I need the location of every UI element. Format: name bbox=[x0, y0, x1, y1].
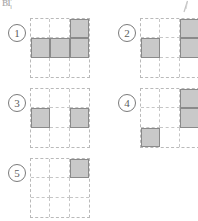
grid-cell-r1c3 bbox=[180, 19, 198, 38]
option-grid-2 bbox=[140, 18, 198, 78]
option-number-3: 3 bbox=[8, 94, 26, 112]
grid-cell-r1c1 bbox=[141, 89, 160, 108]
option-grid-5 bbox=[30, 158, 90, 218]
grid-cell-r2c3 bbox=[180, 108, 198, 127]
grid-cell-r3c2 bbox=[160, 58, 179, 77]
grid-cell-r1c2 bbox=[50, 19, 69, 38]
grid-cell-r3c3 bbox=[70, 198, 89, 217]
grid-cell-r2c1 bbox=[141, 38, 160, 57]
grid-cell-r3c1 bbox=[31, 198, 50, 217]
grid-cell-r3c2 bbox=[50, 198, 69, 217]
grid-cell-r3c2 bbox=[50, 58, 69, 77]
grid-cell-r2c2 bbox=[160, 108, 179, 127]
grid-cell-r1c2 bbox=[50, 159, 69, 178]
grid-cell-r2c2 bbox=[50, 108, 69, 127]
answer-option-3[interactable]: 3 bbox=[8, 88, 90, 148]
grid-cell-r1c2 bbox=[160, 89, 179, 108]
grid-cell-r2c2 bbox=[50, 38, 69, 57]
grid-cell-r3c3 bbox=[70, 128, 89, 147]
grid-cell-r1c3 bbox=[70, 159, 89, 178]
option-grid-4 bbox=[140, 88, 198, 148]
option-number-1: 1 bbox=[8, 24, 26, 42]
grid-cell-r3c3 bbox=[70, 58, 89, 77]
grid-cell-r2c3 bbox=[180, 38, 198, 57]
grid-cell-r1c2 bbox=[50, 89, 69, 108]
grid-cell-r1c1 bbox=[31, 159, 50, 178]
grid-cell-r3c2 bbox=[160, 128, 179, 147]
grid-cell-r3c1 bbox=[141, 58, 160, 77]
grid-cell-r1c2 bbox=[160, 19, 179, 38]
grid-cell-r1c1 bbox=[141, 19, 160, 38]
grid-cell-r2c2 bbox=[160, 38, 179, 57]
grid-cell-r1c1 bbox=[31, 19, 50, 38]
answer-options-list: 1 2 3 bbox=[0, 0, 198, 221]
grid-cell-r1c3 bbox=[70, 89, 89, 108]
grid-cell-r3c1 bbox=[141, 128, 160, 147]
grid-cell-r2c1 bbox=[31, 108, 50, 127]
answer-option-4[interactable]: 4 bbox=[118, 88, 198, 148]
grid-cell-r2c1 bbox=[141, 108, 160, 127]
grid-cell-r1c3 bbox=[180, 89, 198, 108]
option-number-5: 5 bbox=[8, 164, 26, 182]
option-grid-1 bbox=[30, 18, 90, 78]
grid-cell-r2c3 bbox=[70, 178, 89, 197]
grid-cell-r2c1 bbox=[31, 38, 50, 57]
grid-cell-r1c3 bbox=[70, 19, 89, 38]
option-number-2: 2 bbox=[118, 24, 136, 42]
answer-option-1[interactable]: 1 bbox=[8, 18, 90, 78]
grid-cell-r3c3 bbox=[180, 58, 198, 77]
grid-cell-r3c2 bbox=[50, 128, 69, 147]
grid-cell-r3c1 bbox=[31, 128, 50, 147]
grid-cell-r2c3 bbox=[70, 108, 89, 127]
answer-option-2[interactable]: 2 bbox=[118, 18, 198, 78]
grid-cell-r1c1 bbox=[31, 89, 50, 108]
grid-cell-r2c1 bbox=[31, 178, 50, 197]
grid-cell-r2c3 bbox=[70, 38, 89, 57]
grid-cell-r3c3 bbox=[180, 128, 198, 147]
option-number-4: 4 bbox=[118, 94, 136, 112]
answer-option-5[interactable]: 5 bbox=[8, 158, 90, 218]
grid-cell-r3c1 bbox=[31, 58, 50, 77]
grid-cell-r2c2 bbox=[50, 178, 69, 197]
option-grid-3 bbox=[30, 88, 90, 148]
